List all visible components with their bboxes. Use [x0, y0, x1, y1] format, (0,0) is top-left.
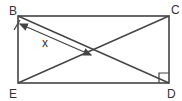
measurement-label-x: x — [42, 36, 48, 50]
vertex-label-b: B — [9, 4, 17, 18]
vertex-label-e: E — [9, 87, 17, 101]
tick-mark-b — [14, 20, 20, 30]
vertex-label-d: D — [167, 87, 176, 101]
measurement-arrow-x — [20, 24, 91, 55]
rectangle-diagram: B C D E x — [0, 0, 182, 101]
vertex-label-c: C — [171, 3, 180, 17]
